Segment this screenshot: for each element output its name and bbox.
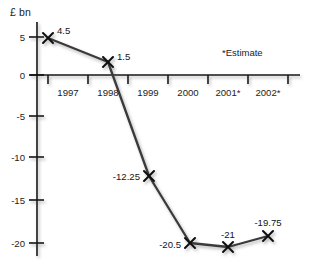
- y-tick-label-0: 0: [20, 70, 25, 81]
- point-label-1997: 4.5: [57, 25, 70, 36]
- y-tick-label-minus10: -10: [11, 152, 25, 163]
- point-label-1999: -12.25: [113, 171, 140, 182]
- x-axis-ticks: [48, 75, 288, 84]
- point-label-1998: 1.5: [117, 51, 130, 62]
- x-axis-year-labels: 1997 1998 1999 2000 2001* 2002*: [57, 87, 280, 98]
- y-tick-label-minus20: -20: [11, 238, 25, 249]
- y-tick-label-5: 5: [20, 32, 25, 43]
- x-tick-label-2002: 2002*: [255, 87, 280, 98]
- line-chart-plot: 5 0 -5 -10 -15 -20 1997 1998 1999 2000 2…: [0, 0, 309, 266]
- y-axis-tick-labels: 5 0 -5 -10 -15 -20: [11, 32, 25, 249]
- marker-1999: [144, 171, 154, 181]
- data-point-markers: [43, 33, 273, 252]
- x-tick-label-1997: 1997: [57, 87, 78, 98]
- point-label-2002: -19.75: [254, 217, 281, 228]
- point-label-2001: -21: [221, 229, 235, 240]
- y-tick-label-minus15: -15: [11, 195, 25, 206]
- x-tick-label-1998: 1998: [97, 87, 118, 98]
- marker-1997: [43, 33, 53, 43]
- point-label-2000: -20.5: [159, 239, 181, 250]
- x-tick-label-1999: 1999: [137, 87, 158, 98]
- chart-container: £ bn *Estimate: [0, 0, 309, 266]
- marker-1998: [103, 57, 113, 67]
- data-point-value-labels: 4.5 1.5 -12.25 -20.5 -21 -19.75: [57, 25, 282, 250]
- y-tick-label-minus5: -5: [16, 111, 25, 122]
- x-tick-label-2001: 2001*: [215, 87, 240, 98]
- x-tick-label-2000: 2000: [177, 87, 198, 98]
- data-line-series: [48, 38, 268, 247]
